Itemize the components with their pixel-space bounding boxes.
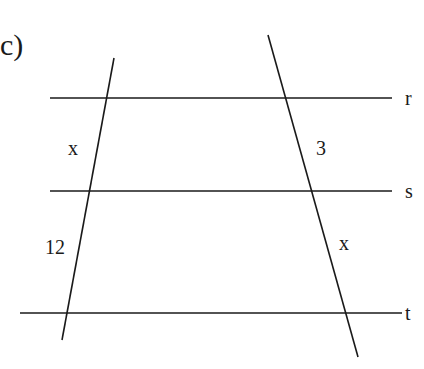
segment-label-left-upper: x xyxy=(68,137,78,159)
left-transversal xyxy=(62,58,114,340)
segment-label-right-upper: 3 xyxy=(316,137,326,159)
part-label: c) xyxy=(0,28,23,62)
segment-label-right-lower: x xyxy=(339,232,349,254)
line-t-label: t xyxy=(405,302,411,324)
parallel-lines-diagram: c) r s t x 12 3 x xyxy=(0,0,424,369)
line-r-label: r xyxy=(405,87,412,109)
line-s-label: s xyxy=(405,180,413,202)
right-transversal xyxy=(268,35,358,357)
segment-label-left-lower: 12 xyxy=(45,236,65,258)
